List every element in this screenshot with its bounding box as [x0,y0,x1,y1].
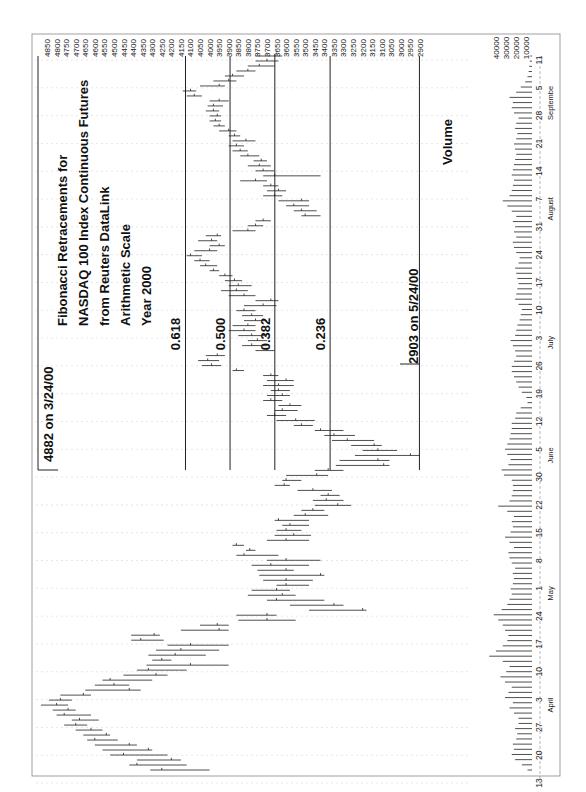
volume-tick-label: 10000 [522,36,531,59]
month-label: May [546,586,555,600]
date-tick-label: 21 [534,138,544,148]
volume-bars [489,56,532,770]
price-tick-label: 3000 [397,39,406,57]
price-tick-label: 2950 [406,39,415,57]
price-tick-label: 4100 [186,39,195,57]
date-tick-label: 17 [534,639,544,649]
date-tick-label: 19 [534,389,544,399]
price-tick-label: 4000 [206,39,215,57]
low-annotation: 2903 on 5/24/00 [406,269,421,364]
price-tick-label: 3200 [359,39,368,57]
chart-title-line: Fibonacci Retracements for [55,155,70,326]
price-tick-label: 3800 [244,39,253,57]
chart-frame [32,34,560,776]
price-tick-label: 4750 [62,39,71,57]
month-label: August [546,196,555,220]
fibonacci-levels: 0.6180.5000.3820.236 [38,56,419,470]
chart-title-line: Arithmetic Scale [118,224,133,326]
price-tick-label: 3400 [320,39,329,57]
date-tick-label: 24 [534,611,544,621]
price-tick-label: 3950 [215,39,224,57]
date-tick-label: 15 [534,528,544,538]
date-tick-label: 28 [534,111,544,121]
date-tick-label: 8 [534,558,544,563]
chart-canvas: 4850480047504700465046004550450044504400… [0,0,586,792]
chart-title-line: Year 2000 [139,266,154,326]
volume-tick-label: 40000 [492,36,501,59]
month-label: Septembe [546,86,555,120]
date-tick-label: 10 [534,305,544,315]
volume-label: Volume [440,119,455,165]
month-label: June [546,447,555,463]
month-label: April [546,697,555,712]
fib-level-label: 0.236 [313,318,328,351]
price-tick-label: 4500 [110,39,119,57]
price-tick-label: 4600 [91,39,100,57]
price-tick-label: 4650 [81,39,90,57]
annotations: 4882 on 3/24/002903 on 5/24/00VolumeFibo… [41,80,455,462]
price-tick-label: 4350 [139,39,148,57]
date-tick-label: 20 [534,750,544,760]
price-tick-label: 3650 [273,39,282,57]
volume-tick-label: 20000 [512,36,521,59]
price-tick-label: 3700 [263,39,272,57]
date-tick-label: 14 [534,166,544,176]
date-tick-label: 3 [534,697,544,702]
price-tick-label: 4050 [196,39,205,57]
date-tick-label: 24 [534,250,544,260]
date-tick-label: 27 [534,722,544,732]
price-tick-label: 3100 [378,39,387,57]
price-tick-label: 4700 [72,39,81,57]
price-tick-label: 4200 [167,39,176,57]
date-tick-label: 7 [534,196,544,201]
price-tick-label: 4550 [100,39,109,57]
fib-level-label: 0.500 [213,318,228,351]
price-tick-label: 2900 [416,39,425,57]
date-tick-label: 5 [534,85,544,90]
fib-level-label: 0.618 [168,318,183,351]
date-tick-label: 17 [534,277,544,287]
price-tick-label: 4300 [148,39,157,57]
fibonacci-chart: 4850480047504700465046004550450044504400… [0,0,586,792]
date-tick-label: 31 [534,222,544,232]
price-tick-label: 4800 [53,39,62,57]
date-axis: 1320273101724181522305121926310172431714… [534,55,555,787]
price-axis: 4850480047504700465046004550450044504400… [43,39,425,57]
price-tick-label: 4250 [158,39,167,57]
high-annotation: 4882 on 3/24/00 [41,367,56,462]
price-tick-label: 3900 [225,39,234,57]
price-tick-label: 3750 [253,39,262,57]
date-tick-label: 26 [534,361,544,371]
price-tick-label: 3600 [282,39,291,57]
price-tick-label: 3300 [339,39,348,57]
date-tick-label: 5 [534,447,544,452]
price-tick-label: 4450 [120,39,129,57]
volume-tick-label: 30000 [502,36,511,59]
price-tick-label: 3850 [234,39,243,57]
chart-title-line: NASDAQ 100 Index Continuous Futures [76,80,91,326]
price-tick-label: 4400 [129,39,138,57]
price-tick-label: 4850 [43,39,52,57]
gridlines [36,60,470,783]
month-label: July [546,336,555,350]
price-tick-label: 3550 [292,39,301,57]
price-tick-label: 3250 [349,39,358,57]
price-tick-label: 3050 [387,39,396,57]
price-tick-label: 3350 [330,39,339,57]
date-tick-label: 1 [534,586,544,591]
price-tick-label: 3150 [368,39,377,57]
date-tick-label: 22 [534,500,544,510]
date-tick-label: 30 [534,472,544,482]
date-tick-label: 10 [534,667,544,677]
price-tick-label: 3450 [311,39,320,57]
volume-axis: 40000300002000010000 [492,36,531,59]
date-tick-label: 11 [534,55,544,64]
price-tick-label: 3500 [301,39,310,57]
date-tick-label: 13 [534,778,544,788]
date-tick-label: 12 [534,417,544,427]
chart-title-line: from Reuters DataLink [97,186,112,326]
date-tick-label: 3 [534,335,544,340]
price-tick-label: 4150 [177,39,186,57]
